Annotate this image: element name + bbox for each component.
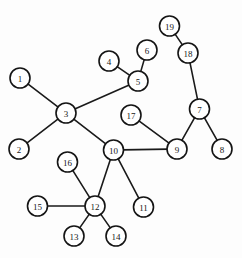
- node-label-16: 16: [63, 158, 73, 168]
- graph-node-16[interactable]: 16: [58, 152, 78, 172]
- graph-node-18[interactable]: 18: [178, 43, 198, 63]
- graph-node-17[interactable]: 17: [121, 105, 141, 125]
- graph-node-8[interactable]: 8: [212, 139, 232, 159]
- graph-edge-4-5: [116, 66, 130, 76]
- node-label-14: 14: [112, 232, 122, 242]
- node-label-6: 6: [145, 46, 150, 56]
- graph-node-9[interactable]: 9: [167, 139, 187, 159]
- graph-node-10[interactable]: 10: [104, 140, 124, 160]
- node-label-18: 18: [184, 49, 194, 59]
- node-label-15: 15: [33, 202, 43, 212]
- graph-node-15[interactable]: 15: [28, 196, 48, 216]
- graph-node-12[interactable]: 12: [85, 196, 105, 216]
- node-label-3: 3: [64, 109, 69, 119]
- node-label-19: 19: [165, 22, 175, 32]
- node-label-2: 2: [17, 145, 22, 155]
- graph-node-1[interactable]: 1: [10, 68, 30, 88]
- graph-node-2[interactable]: 2: [9, 139, 29, 159]
- node-label-13: 13: [70, 232, 80, 242]
- graph-edge-17-9: [138, 120, 170, 143]
- graph-node-4[interactable]: 4: [99, 51, 119, 71]
- graph-node-7[interactable]: 7: [190, 99, 210, 119]
- graph-figure: 12345678910111213141516171819: [0, 0, 242, 258]
- graph-edge-5-6: [141, 59, 145, 73]
- graph-canvas: 12345678910111213141516171819: [0, 0, 242, 258]
- node-label-4: 4: [107, 57, 112, 67]
- node-label-5: 5: [136, 77, 141, 87]
- graph-edge-12-14: [100, 213, 111, 228]
- graph-edge-7-9: [181, 117, 195, 141]
- graph-edge-9-10: [123, 149, 169, 150]
- graph-edge-2-3: [26, 118, 59, 143]
- graph-node-6[interactable]: 6: [137, 40, 157, 60]
- node-label-11: 11: [139, 203, 148, 213]
- node-label-17: 17: [127, 111, 137, 121]
- graph-node-13[interactable]: 13: [64, 226, 84, 246]
- node-label-8: 8: [220, 145, 225, 155]
- graph-edge-19-18: [175, 33, 183, 45]
- graph-node-19[interactable]: 19: [160, 16, 180, 36]
- graph-edge-12-16: [72, 170, 90, 199]
- graph-node-5[interactable]: 5: [128, 71, 148, 91]
- graph-edge-12-13: [79, 213, 90, 228]
- node-label-1: 1: [18, 74, 23, 84]
- graph-edge-1-3: [27, 83, 59, 107]
- node-label-10: 10: [109, 146, 119, 156]
- graph-edge-18-7: [190, 62, 198, 100]
- graph-edge-10-11: [118, 158, 140, 199]
- graph-edge-7-8: [204, 117, 218, 141]
- graph-edge-3-5: [74, 85, 130, 110]
- graph-edge-10-12: [98, 159, 111, 198]
- node-label-12: 12: [91, 202, 100, 212]
- graph-node-11[interactable]: 11: [134, 197, 154, 217]
- node-label-9: 9: [175, 145, 180, 155]
- node-label-7: 7: [197, 105, 202, 115]
- graph-node-3[interactable]: 3: [56, 103, 76, 123]
- graph-edge-3-10: [73, 119, 106, 145]
- graph-node-14[interactable]: 14: [106, 226, 126, 246]
